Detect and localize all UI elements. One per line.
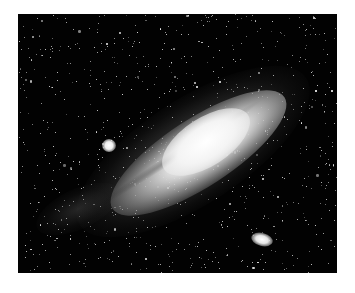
- star: [26, 97, 27, 98]
- star: [45, 77, 46, 78]
- star: [245, 196, 246, 197]
- star: [287, 64, 288, 65]
- star: [332, 142, 333, 143]
- star: [129, 246, 130, 247]
- star: [287, 251, 288, 252]
- star: [233, 59, 234, 60]
- star: [21, 49, 23, 51]
- star: [329, 87, 330, 88]
- star: [36, 54, 37, 55]
- star: [24, 144, 25, 145]
- star: [204, 264, 205, 265]
- star: [156, 77, 157, 78]
- star: [306, 220, 307, 221]
- star: [319, 147, 321, 149]
- star: [67, 63, 68, 64]
- star: [106, 43, 108, 45]
- star: [213, 71, 214, 72]
- star: [114, 62, 115, 63]
- star: [262, 254, 263, 255]
- star: [232, 45, 233, 46]
- star: [158, 108, 159, 109]
- star: [325, 123, 326, 124]
- star: [114, 43, 115, 44]
- star: [221, 225, 222, 226]
- star: [132, 46, 133, 47]
- star: [129, 243, 130, 244]
- star: [109, 240, 110, 241]
- star: [98, 23, 99, 24]
- star: [262, 59, 263, 60]
- star: [174, 76, 176, 78]
- star: [321, 249, 322, 250]
- star: [73, 29, 74, 30]
- star: [29, 57, 30, 58]
- star: [171, 62, 172, 63]
- star: [255, 20, 257, 22]
- star: [252, 262, 253, 263]
- star: [116, 76, 117, 77]
- star: [169, 256, 170, 257]
- star: [308, 224, 309, 225]
- star: [218, 262, 219, 263]
- star: [258, 191, 259, 192]
- star: [284, 178, 285, 179]
- star: [52, 38, 53, 39]
- star: [289, 18, 290, 19]
- star: [191, 265, 192, 266]
- star: [313, 28, 314, 29]
- star: [330, 169, 331, 170]
- star: [131, 263, 133, 265]
- star: [70, 48, 71, 49]
- star: [208, 46, 209, 47]
- star: [41, 20, 43, 22]
- star: [252, 267, 254, 269]
- star: [40, 133, 41, 134]
- star: [315, 90, 317, 92]
- star: [87, 132, 88, 133]
- star: [70, 167, 72, 169]
- star: [212, 261, 213, 262]
- star: [77, 178, 78, 179]
- star: [311, 264, 312, 265]
- star: [308, 266, 309, 267]
- star: [56, 153, 57, 154]
- star: [160, 28, 162, 30]
- star: [100, 257, 101, 258]
- star: [326, 163, 327, 164]
- star: [53, 146, 54, 147]
- star: [309, 108, 310, 109]
- star: [22, 166, 23, 167]
- star: [284, 269, 285, 270]
- star: [135, 25, 136, 26]
- star: [299, 27, 300, 28]
- star: [276, 239, 277, 240]
- star: [325, 188, 326, 189]
- star: [139, 71, 140, 72]
- star: [325, 62, 326, 63]
- star: [112, 261, 113, 262]
- star: [30, 231, 31, 232]
- star: [309, 251, 310, 252]
- star: [186, 15, 188, 17]
- star: [128, 41, 129, 42]
- star: [104, 15, 105, 16]
- astronomy-photo: [18, 14, 337, 273]
- star: [56, 189, 57, 190]
- star: [39, 36, 40, 37]
- star: [109, 259, 110, 260]
- star: [206, 17, 207, 18]
- star: [23, 129, 24, 130]
- star: [134, 41, 135, 42]
- star: [275, 46, 276, 47]
- star: [50, 268, 51, 269]
- star: [114, 38, 115, 39]
- star: [76, 81, 77, 82]
- star: [137, 32, 138, 33]
- star: [306, 29, 307, 30]
- star: [178, 243, 179, 244]
- star: [99, 16, 100, 17]
- star: [281, 146, 282, 147]
- star: [189, 244, 190, 245]
- star: [66, 114, 67, 115]
